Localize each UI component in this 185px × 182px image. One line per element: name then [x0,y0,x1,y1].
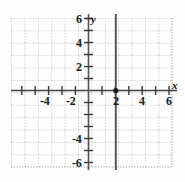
x-tick-label-6: 6 [166,95,172,107]
x-tick-label-neg4: -4 [40,95,49,107]
y-tick-label-4: 4 [76,37,82,49]
y-tick-label-2: 2 [76,61,82,73]
y-tick-label-neg4: -4 [72,133,81,145]
plotted-point-2-0 [113,88,118,93]
y-tick-label-6: 6 [76,13,82,25]
x-tick-label-2: 2 [113,95,119,107]
coordinate-plane-svg [0,0,185,182]
x-tick-label-4: 4 [139,95,145,107]
graph-figure: -4 -2 2 4 6 6 4 2 -4 -6 y x [0,0,185,182]
y-tick-label-neg6: -6 [72,157,81,169]
x-axis-label: x [172,80,178,91]
y-axis-label: y [91,14,96,25]
x-tick-label-neg2: -2 [66,95,75,107]
